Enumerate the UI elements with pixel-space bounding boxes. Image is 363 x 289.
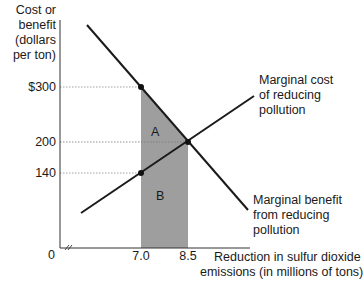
y-tick-200: 200 xyxy=(26,135,56,150)
x-axis-label-line2: emissions (in millions of tons) xyxy=(200,265,363,280)
mc-label-line1: Marginal cost xyxy=(259,73,333,88)
region-a-label: A xyxy=(151,125,159,140)
mc-label-line3: pollution xyxy=(259,103,306,118)
point-mb-7 xyxy=(138,84,144,90)
x-axis-label-line1: Reduction in sulfur dioxide xyxy=(214,250,361,265)
mc-label-line2: of reducing xyxy=(259,88,321,103)
mb-label-line2: from reducing xyxy=(253,208,329,223)
y-tick-140: 140 xyxy=(26,166,56,181)
x-tick-7: 7.0 xyxy=(126,249,156,264)
y-tick-300: $300 xyxy=(26,80,56,95)
origin-label: 0 xyxy=(48,248,55,263)
region-b-label: B xyxy=(156,189,164,204)
x-tick-8-5: 8.5 xyxy=(173,249,203,264)
point-mc-7 xyxy=(138,170,144,176)
y-axis-label: Cost or benefit (dollars per ton) xyxy=(8,3,56,63)
mb-label-line1: Marginal benefit xyxy=(253,193,342,208)
point-equilibrium xyxy=(185,139,191,145)
mb-label-line3: pollution xyxy=(253,223,300,238)
